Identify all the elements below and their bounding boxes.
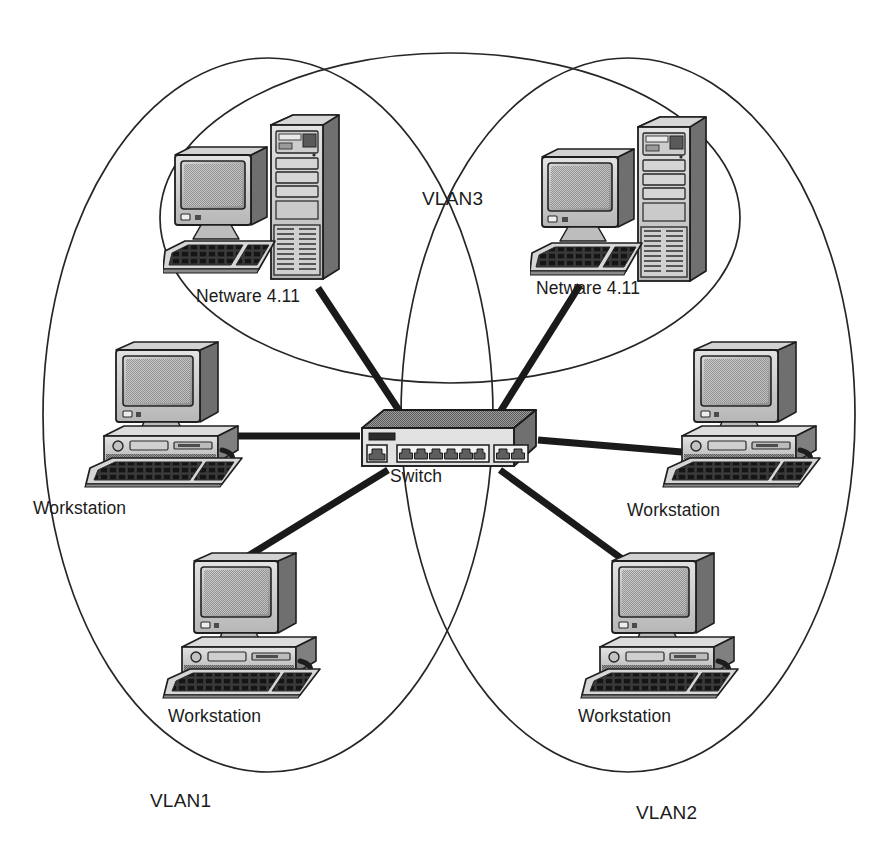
workstation-top-left-icon[interactable] xyxy=(85,342,242,487)
vlan2-label: VLAN2 xyxy=(636,802,697,824)
workstation-bottom-right-label: Workstation xyxy=(578,706,671,727)
link-server-right-to-switch xyxy=(500,285,580,412)
server-left-label: Netware 4.11 xyxy=(196,286,300,307)
server-right-label: Netware 4.11 xyxy=(536,278,640,299)
link-server-left-to-switch xyxy=(318,288,400,412)
link-ws-top-right-to-switch xyxy=(538,440,682,452)
link-ws-bottom-right-to-switch xyxy=(500,470,640,572)
workstation-top-left-label: Workstation xyxy=(33,498,126,519)
switch-icon[interactable] xyxy=(362,410,536,466)
workstation-top-right-label: Workstation xyxy=(627,500,720,521)
diagram-canvas xyxy=(0,0,895,846)
server-right-icon[interactable] xyxy=(530,117,706,281)
server-left-icon[interactable] xyxy=(163,115,339,279)
workstation-bottom-left-label: Workstation xyxy=(168,706,261,727)
vlan1-label: VLAN1 xyxy=(150,790,211,812)
workstation-bottom-right-icon[interactable] xyxy=(581,553,738,698)
workstation-top-right-icon[interactable] xyxy=(663,342,820,487)
vlan-network-diagram: VLAN3 VLAN1 VLAN2 Netware 4.11 Netware 4… xyxy=(0,0,895,846)
workstation-bottom-left-icon[interactable] xyxy=(163,553,320,698)
vlan3-label: VLAN3 xyxy=(422,188,483,210)
switch-label: Switch xyxy=(390,466,442,487)
